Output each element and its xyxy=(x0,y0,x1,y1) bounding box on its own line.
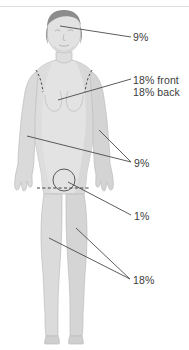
foot-right-shape xyxy=(69,336,84,344)
leader-line-leg-left xyxy=(49,238,130,279)
foot-left-shape xyxy=(45,336,60,344)
leg-left-shape xyxy=(41,194,62,336)
body-figure-illustration xyxy=(0,0,189,350)
label-trunk-percentage: 18% front18% back xyxy=(133,74,180,98)
rule-of-nines-diagram: 9% 18% front18% back 9% 1% 18% xyxy=(0,0,189,350)
label-perineum-percentage: 1% xyxy=(134,210,149,222)
label-arms-percentage: 9% xyxy=(134,157,149,169)
label-trunk-front: 18% front xyxy=(133,74,179,86)
leg-right-shape xyxy=(66,194,87,336)
label-head-percentage: 9% xyxy=(133,31,148,43)
body-silhouette xyxy=(15,10,114,344)
label-trunk-back: 18% back xyxy=(133,86,180,98)
arm-left-shape xyxy=(15,72,38,191)
label-legs-percentage: 18% xyxy=(133,274,154,286)
